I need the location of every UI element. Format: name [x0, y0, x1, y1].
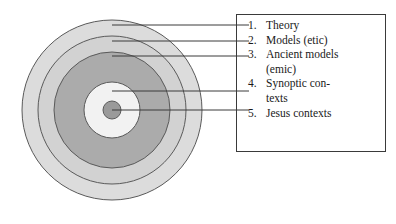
legend-item-label: Synoptic con- texts — [266, 76, 382, 105]
legend-item-label: Models (etic) — [266, 33, 382, 48]
legend-item-number: 3. — [248, 47, 266, 62]
legend-list: 1. Theory 2. Models (etic) 3. Ancient mo… — [248, 18, 382, 120]
legend-item: 1. Theory — [248, 18, 382, 33]
legend-item: 4. Synoptic con- texts — [248, 76, 382, 105]
legend-item-number: 1. — [248, 18, 266, 33]
legend-item: 5. Jesus contexts — [248, 106, 382, 121]
figure-container: 1. Theory 2. Models (etic) 3. Ancient mo… — [0, 0, 396, 224]
legend-item: 2. Models (etic) — [248, 33, 382, 48]
legend-item-label: Ancient models (emic) — [266, 47, 382, 76]
legend-item-number: 4. — [248, 76, 266, 91]
legend-item: 3. Ancient models (emic) — [248, 47, 382, 76]
legend-item-number: 5. — [248, 106, 266, 121]
legend-item-label: Theory — [266, 18, 382, 33]
legend-item-number: 2. — [248, 33, 266, 48]
legend-item-label: Jesus contexts — [266, 106, 382, 121]
